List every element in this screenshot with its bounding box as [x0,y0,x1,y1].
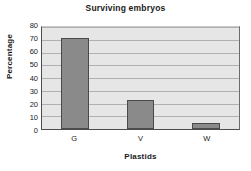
y-axis-tick-label: 70 [18,35,38,42]
x-axis-tick-labels: GVW [41,134,240,143]
y-axis-tick-label: 30 [18,87,38,94]
y-axis-tick-label: 60 [18,48,38,55]
x-axis-title: Plastids [41,152,240,161]
y-axis-tick-label: 20 [18,100,38,107]
plot-area [41,26,240,130]
x-axis-tick-label: V [107,134,173,143]
y-axis-tick-label: 10 [18,113,38,120]
y-axis-tick-labels: 80706050403020100 [18,25,38,130]
y-axis-tick-label: 50 [18,61,38,68]
bar-slot [108,27,174,129]
y-axis-tick-label: 80 [18,22,38,29]
bar-slot [42,27,108,129]
bar-slot [173,27,239,129]
bars-layer [42,27,239,129]
y-axis-tick-label: 0 [18,127,38,134]
bar-chart-figure: Surviving embryos Percentage 80706050403… [0,0,251,171]
bar-w[interactable] [192,123,220,129]
x-axis-tick-label: G [41,134,107,143]
bar-v[interactable] [127,100,155,129]
chart-title: Surviving embryos [0,3,251,13]
y-axis-title: Percentage [5,22,14,92]
bar-g[interactable] [61,38,89,129]
y-axis-tick-label: 40 [18,74,38,81]
x-axis-tick-label: W [174,134,240,143]
